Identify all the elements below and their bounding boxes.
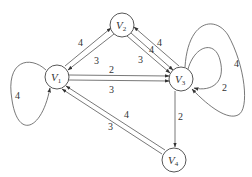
weight-v3-v2: 4: [157, 37, 162, 48]
weight-v2-v3-b: 3: [138, 54, 143, 65]
edge-v1-v3-a: [69, 75, 169, 76]
edge-v2-v3-b: [127, 36, 170, 73]
edge-v1-v2: [65, 28, 111, 66]
node-v4: V4: [162, 148, 186, 172]
weighted-directed-graph: 4 4 3 2 3 4 4 3 2 4 2 4 3 V1 V2 V3 V4: [0, 0, 252, 177]
weight-v1-v1: 4: [15, 90, 20, 101]
weight-v1-v2: 4: [78, 37, 83, 48]
weight-v3-v3-outer: 4: [234, 58, 239, 69]
weight-v3-v3-inner: 2: [222, 82, 227, 93]
edge-v2-v1: [68, 34, 114, 70]
weight-v3-v4: 2: [178, 111, 183, 122]
weight-v4-v1-a: 4: [124, 109, 129, 120]
edge-v4-v1-a: [66, 86, 165, 150]
edge-v3-v3-outer: [185, 24, 245, 116]
node-v3: V3: [169, 67, 193, 91]
edge-v1-v3-b: [69, 80, 169, 81]
weight-v1-v3-a: 2: [109, 64, 114, 75]
weight-v2-v1: 3: [94, 55, 99, 66]
node-v1: V1: [45, 65, 69, 89]
weight-v1-v3-b: 3: [109, 84, 114, 95]
node-v2: V2: [110, 13, 134, 37]
weight-v2-v3-a: 4: [149, 44, 154, 55]
edge-v3-v3-inner: [188, 48, 221, 89]
weight-v4-v1-b: 3: [108, 121, 113, 132]
